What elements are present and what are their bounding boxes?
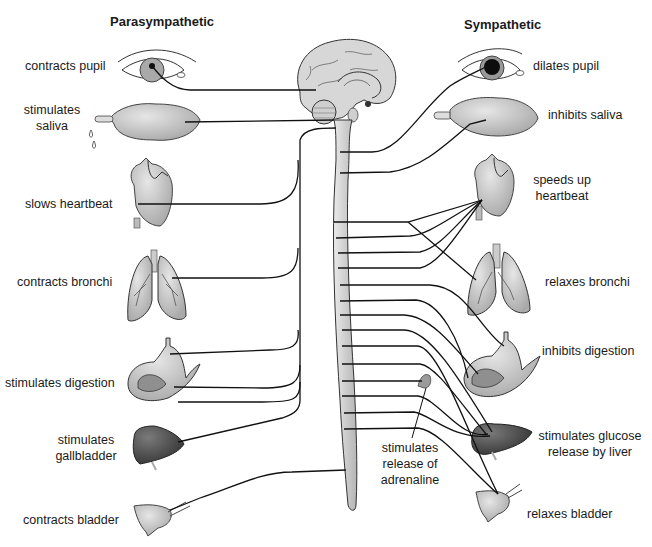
brain (298, 39, 396, 124)
label-contracts-bladder: contracts bladder (23, 512, 119, 528)
label-inhibits-saliva: inhibits saliva (548, 107, 622, 123)
lungs-left (128, 250, 186, 321)
label-relaxes-bronchi: relaxes bronchi (545, 274, 630, 290)
heart-right (475, 154, 514, 220)
salivary-gland-left (90, 104, 201, 148)
label-contracts-bronchi: contracts bronchi (17, 274, 112, 290)
label-inhibits-digestion: inhibits digestion (542, 343, 634, 359)
salivary-gland-right (434, 98, 538, 137)
heading-sympathetic: Sympathetic (464, 17, 541, 32)
label-stimulates-adrenaline: stimulates release of adrenaline (370, 440, 450, 488)
label-line: speeds up (526, 172, 598, 188)
label-line: stimulates (52, 432, 120, 448)
bladder-left (134, 502, 190, 536)
label-dilates-pupil: dilates pupil (533, 58, 599, 74)
liver-right (472, 424, 532, 460)
stomach-right (464, 332, 540, 397)
liver-left (133, 426, 184, 470)
label-line: saliva (20, 118, 84, 134)
label-slows-heartbeat: slows heartbeat (25, 196, 113, 212)
label-line: heartbeat (526, 188, 598, 204)
label-line: stimulates (20, 102, 84, 118)
label-stimulates-saliva: stimulates saliva (20, 102, 84, 134)
label-line: stimulates glucose (534, 428, 646, 444)
heading-parasympathetic: Parasympathetic (110, 14, 214, 29)
label-line: gallbladder (52, 448, 120, 464)
label-line: adrenaline (370, 472, 450, 488)
label-stimulates-digestion: stimulates digestion (5, 375, 115, 391)
label-contracts-pupil: contracts pupil (25, 58, 106, 74)
label-stimulates-gallbladder: stimulates gallbladder (52, 432, 120, 464)
lungs-right (468, 244, 530, 315)
label-relaxes-bladder: relaxes bladder (527, 506, 612, 522)
label-line: stimulates (370, 440, 450, 456)
label-stimulates-glucose-release: stimulates glucose release by liver (534, 428, 646, 460)
label-line: release of (370, 456, 450, 472)
bladder-right (476, 484, 522, 522)
eye-left (118, 50, 196, 82)
heart-left (131, 158, 172, 228)
label-speeds-up-heartbeat: speeds up heartbeat (526, 172, 598, 204)
label-line: release by liver (534, 444, 646, 460)
stomach-left (128, 338, 200, 401)
